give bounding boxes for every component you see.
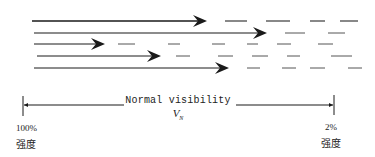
left-percent-label: 100% bbox=[16, 123, 37, 133]
ray-3 bbox=[34, 38, 333, 50]
visibility-symbol: VN bbox=[166, 107, 190, 121]
visibility-diagram bbox=[0, 0, 375, 157]
right-percent-label: 2% bbox=[325, 122, 337, 132]
right-arrowhead-icon bbox=[329, 103, 333, 107]
light-rays bbox=[32, 15, 362, 74]
ray-1 bbox=[32, 15, 358, 27]
visibility-symbol-sub: N bbox=[179, 115, 183, 121]
ray-5 bbox=[34, 62, 362, 74]
ray-2 bbox=[34, 27, 345, 39]
left-arrowhead-icon bbox=[24, 103, 28, 107]
normal-visibility-label: Normal visibility bbox=[122, 95, 234, 106]
right-intensity-label: 强度 bbox=[321, 135, 341, 150]
left-intensity-label: 强度 bbox=[16, 136, 36, 151]
ray-4 bbox=[37, 50, 352, 62]
